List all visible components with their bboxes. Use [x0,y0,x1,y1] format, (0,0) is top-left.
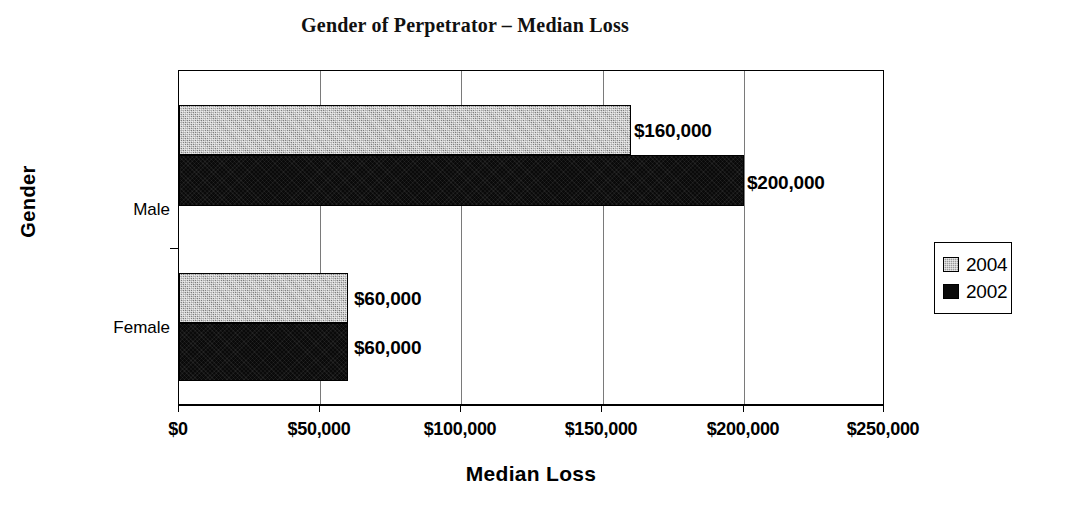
x-axis-tick-100000 [460,404,461,412]
chart-title: Gender of Perpetrator – Median Loss [0,14,930,37]
x-axis-label-150000: $150,000 [536,419,666,440]
legend: 2004 2002 [934,242,1012,314]
y-axis-title: Gender [17,132,40,272]
bar-male-2002[interactable] [179,155,744,206]
legend-item-2004[interactable]: 2004 [943,251,1011,278]
x-axis-tick-250000 [883,404,884,412]
x-axis-label-100000: $100,000 [395,419,525,440]
bar-female-2004[interactable] [179,273,348,323]
x-axis-tick-0 [178,404,179,412]
x-axis-label-50000: $50,000 [259,419,379,440]
bar-female-2002[interactable] [179,323,348,381]
data-label-male-2004: $160,000 [634,120,712,142]
bar-male-2004[interactable] [179,105,631,155]
legend-label-2004: 2004 [966,254,1007,276]
x-axis-tick-50000 [319,404,320,412]
y-axis-category-labels: Male Female [60,70,170,405]
category-label-female: Female [113,318,170,338]
data-label-male-2002: $200,000 [747,172,825,194]
x-axis-tick-150000 [601,404,602,412]
legend-swatch-2004-icon [943,257,959,272]
x-axis-label-0: $0 [148,419,208,440]
legend-swatch-2002-icon [943,284,959,299]
data-label-female-2002: $60,000 [354,337,421,359]
plot-area [178,70,884,405]
x-axis-tick-200000 [743,404,744,412]
x-axis-title: Median Loss [178,462,884,486]
x-axis-label-250000: $250,000 [818,419,948,440]
legend-item-2002[interactable]: 2002 [943,278,1011,305]
x-axis-label-200000: $200,000 [678,419,808,440]
legend-label-2002: 2002 [966,281,1007,303]
category-label-male: Male [133,200,170,220]
x-axis-line [178,404,884,406]
gridline-200000 [744,71,745,404]
data-label-female-2004: $60,000 [354,288,421,310]
